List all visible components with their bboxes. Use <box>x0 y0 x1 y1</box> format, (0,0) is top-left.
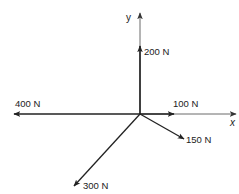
force-200n-label: 200 N <box>144 46 169 57</box>
force-300n-arrow <box>74 114 140 186</box>
force-300n-label: 300 N <box>83 180 108 191</box>
force-150n-label: 150 N <box>186 134 211 145</box>
force-400n-label: 400 N <box>15 98 40 109</box>
force-100n-label: 100 N <box>173 98 198 109</box>
force-150n-arrow <box>140 114 184 139</box>
x-axis-label: x <box>229 117 236 128</box>
y-axis-label: y <box>126 12 131 23</box>
force-diagram: y x 200 N 100 N 400 N 150 N 300 N <box>0 0 239 194</box>
